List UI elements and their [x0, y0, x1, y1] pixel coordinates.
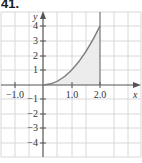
y-tick-label: −1 — [27, 93, 38, 104]
y-tick-label: 1 — [33, 64, 38, 75]
y-tick-label: −2 — [27, 108, 38, 119]
y-tick-label: 4 — [33, 20, 38, 31]
x-tick-label: −1.0 — [6, 89, 24, 100]
x-tick-label: 2.0 — [94, 89, 107, 100]
x-tick-label: 1.0 — [66, 89, 79, 100]
y-tick-label: 3 — [33, 35, 38, 46]
y-tick-label: −4 — [27, 137, 38, 148]
y-tick-label: −3 — [27, 122, 38, 133]
x-axis-arrow-icon — [133, 82, 141, 88]
y-tick-label: 2 — [33, 50, 38, 61]
axes — [1, 15, 136, 157]
x-axis-label: x — [132, 89, 138, 100]
chart: y x −1.0 1.0 2.0 4 3 2 1 −1 −2 −3 −4 — [0, 0, 142, 163]
